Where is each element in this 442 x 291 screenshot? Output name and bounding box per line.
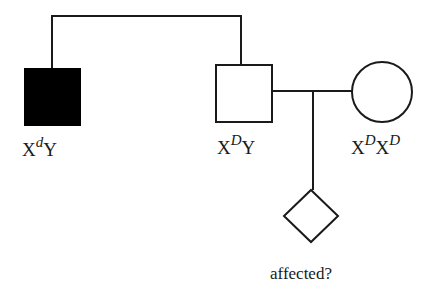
genotype-label-affected-male: XdY [22, 139, 57, 161]
child-caption: affected? [270, 264, 332, 284]
child-unknown-sex-symbol [284, 190, 338, 242]
affected-male-symbol [24, 68, 81, 126]
genotype-label-father: XDY [217, 137, 255, 159]
father-symbol [216, 65, 272, 122]
sibship-line [52, 16, 241, 68]
pedigree-diagram: XdY XDY XDXD affected? [0, 0, 442, 291]
genotype-label-mother: XDXD [351, 137, 400, 159]
mother-symbol [352, 62, 412, 122]
